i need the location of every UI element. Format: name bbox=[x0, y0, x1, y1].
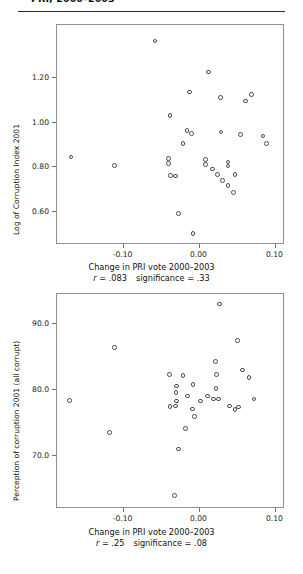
data-point bbox=[181, 373, 186, 378]
x-tick-label: 0.10 bbox=[266, 250, 283, 259]
data-point bbox=[210, 167, 215, 172]
y-tick-label: 70.0 bbox=[32, 451, 49, 460]
x-tick-mark bbox=[123, 244, 124, 248]
data-point bbox=[214, 386, 219, 391]
data-point bbox=[252, 397, 257, 402]
data-point bbox=[231, 190, 236, 195]
header-rule bbox=[18, 11, 285, 12]
data-point bbox=[173, 174, 178, 179]
y-tick-mark bbox=[52, 389, 56, 390]
data-point bbox=[112, 163, 117, 168]
x-tick-label: -0.10 bbox=[113, 514, 133, 523]
x-tick-label: -0.10 bbox=[113, 250, 133, 259]
data-point bbox=[213, 359, 218, 364]
data-point bbox=[183, 426, 188, 431]
data-point bbox=[191, 382, 196, 387]
data-point bbox=[176, 447, 181, 452]
data-point bbox=[261, 134, 266, 139]
x-tick-label: 0.00 bbox=[190, 514, 207, 523]
data-point bbox=[185, 394, 190, 399]
data-point bbox=[235, 338, 240, 343]
data-point bbox=[226, 164, 231, 169]
correlation-value: = .083 bbox=[97, 273, 127, 283]
data-point bbox=[217, 302, 222, 307]
y-axis-title-top: Log of Corruption Index 2001 bbox=[12, 124, 21, 235]
data-point bbox=[190, 407, 195, 412]
plot-area-top bbox=[57, 25, 283, 243]
data-point bbox=[187, 90, 192, 95]
data-point bbox=[206, 70, 211, 75]
data-point bbox=[173, 404, 178, 409]
data-point bbox=[181, 141, 186, 146]
data-point bbox=[236, 405, 241, 410]
x-tick-label: 0.00 bbox=[190, 250, 207, 259]
data-point bbox=[168, 173, 173, 178]
data-point bbox=[167, 372, 172, 377]
data-point bbox=[176, 211, 181, 216]
y-tick-label: 90.0 bbox=[32, 318, 49, 327]
data-point bbox=[220, 178, 225, 183]
data-point bbox=[205, 394, 210, 399]
y-tick-mark bbox=[52, 323, 56, 324]
data-point bbox=[214, 372, 219, 377]
data-point bbox=[174, 390, 179, 395]
stats-annotation-top: r = .083significance = .33 bbox=[0, 273, 303, 283]
data-point bbox=[191, 231, 196, 236]
y-tick-mark bbox=[52, 122, 56, 123]
data-point bbox=[218, 95, 223, 100]
y-tick-label: 1.00 bbox=[32, 117, 49, 126]
data-point bbox=[227, 404, 232, 409]
data-point bbox=[168, 113, 173, 118]
stats-annotation-bottom: r = .25significance = .08 bbox=[0, 538, 303, 548]
significance-label: significance bbox=[136, 273, 185, 283]
running-head: PRI, 2000–2003 bbox=[31, 0, 115, 4]
data-point bbox=[174, 384, 179, 389]
data-point bbox=[166, 161, 171, 166]
data-point bbox=[67, 398, 72, 403]
data-point bbox=[203, 162, 208, 167]
data-point bbox=[107, 430, 112, 435]
data-point bbox=[226, 183, 231, 188]
data-point bbox=[219, 130, 224, 135]
data-point bbox=[203, 157, 208, 162]
data-point bbox=[264, 141, 269, 146]
x-tick-mark bbox=[123, 508, 124, 512]
y-axis-title-bottom: Perception of corruption 2001 (all corru… bbox=[12, 341, 21, 501]
data-point bbox=[243, 99, 248, 104]
plot-area-bottom bbox=[57, 294, 283, 507]
significance-label: significance bbox=[133, 538, 182, 548]
data-point bbox=[153, 39, 158, 44]
data-point bbox=[189, 131, 194, 136]
plot-frame-bottom bbox=[56, 293, 284, 508]
data-point bbox=[198, 399, 203, 404]
correlation-value: = .25 bbox=[99, 538, 124, 548]
data-point bbox=[233, 172, 238, 177]
y-tick-mark bbox=[52, 166, 56, 167]
x-tick-mark bbox=[199, 508, 200, 512]
x-axis-title-bottom: Change in PRI vote 2000–2003 bbox=[0, 527, 303, 537]
data-point bbox=[247, 375, 252, 380]
y-tick-label: 0.60 bbox=[32, 206, 49, 215]
data-point bbox=[168, 404, 173, 409]
y-tick-label: 1.20 bbox=[32, 73, 49, 82]
data-point bbox=[192, 414, 197, 419]
significance-value: = .33 bbox=[185, 273, 210, 283]
significance-value: = .08 bbox=[182, 538, 207, 548]
data-point bbox=[211, 397, 216, 402]
y-tick-label: 0.80 bbox=[32, 162, 49, 171]
data-point bbox=[112, 345, 117, 350]
y-tick-mark bbox=[52, 211, 56, 212]
data-point bbox=[249, 92, 254, 97]
x-axis-title-top: Change in PRI vote 2000–2003 bbox=[0, 262, 303, 272]
x-tick-mark bbox=[275, 508, 276, 512]
y-tick-label: 80.0 bbox=[32, 384, 49, 393]
y-tick-mark bbox=[52, 77, 56, 78]
data-point bbox=[215, 172, 220, 177]
x-tick-mark bbox=[199, 244, 200, 248]
x-tick-mark bbox=[275, 244, 276, 248]
x-tick-label: 0.10 bbox=[266, 514, 283, 523]
data-point bbox=[240, 368, 245, 373]
data-point bbox=[216, 397, 221, 402]
y-tick-mark bbox=[52, 455, 56, 456]
figure-page: PRI, 2000–2003 0.600.801.001.20 -0.100.0… bbox=[0, 0, 303, 574]
